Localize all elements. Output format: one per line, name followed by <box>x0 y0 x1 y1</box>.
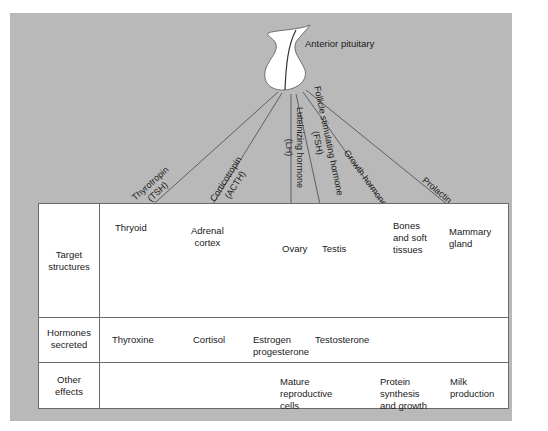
row-divider <box>39 362 508 363</box>
hormone-table: Targetstructures Hormonessecreted Othere… <box>38 203 509 409</box>
target-ovary: Ovary <box>282 243 307 255</box>
target-mammary-gland: Mammarygland <box>449 226 491 250</box>
row-label-hormones-secreted: Hormonessecreted <box>39 327 99 351</box>
secreted-cortisol: Cortisol <box>193 334 225 346</box>
target-testis: Testis <box>322 243 346 255</box>
column-divider <box>99 204 100 408</box>
secreted-thyroxine: Thyroxine <box>112 334 154 346</box>
row-label-target-structures: Targetstructures <box>39 249 99 273</box>
effect-milk-production: Milkproduction <box>450 376 494 400</box>
effect-mature-reproductive-cells: Maturereproductivecells <box>280 376 332 412</box>
secreted-testosterone: Testosterone <box>315 334 369 346</box>
target-bones: Bonesand softtissues <box>393 220 427 256</box>
row-divider <box>39 317 508 318</box>
pituitary-icon <box>265 25 310 90</box>
effect-protein-synthesis: Proteinsynthesisand growth <box>380 376 427 412</box>
anterior-pituitary-label: Anterior pituitary <box>305 38 374 50</box>
target-adrenal-cortex: Adrenalcortex <box>191 225 224 249</box>
target-thyroid: Thryoid <box>115 222 147 234</box>
row-label-other-effects: Othereffects <box>39 374 99 398</box>
secreted-estrogen-progesterone: Estrogenprogesterone <box>253 334 309 358</box>
luteinizing-hormone-label: Luteinizing hormone(LH) <box>283 107 305 188</box>
